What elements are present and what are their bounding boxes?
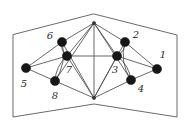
graph-node-2 bbox=[120, 37, 129, 46]
graph-edge-7-t bbox=[67, 23, 94, 56]
graph-node-5 bbox=[21, 63, 30, 72]
node-label-5: 5 bbox=[21, 78, 27, 89]
graph-apex-node-t bbox=[92, 21, 95, 24]
graph-edge-4-b bbox=[94, 80, 131, 98]
figure-root: 12345678 bbox=[0, 0, 188, 128]
graph-edge-5-7 bbox=[26, 56, 67, 68]
node-label-3: 3 bbox=[112, 64, 118, 75]
graph-node-7 bbox=[62, 51, 71, 60]
graph-node-8 bbox=[50, 76, 59, 85]
graph-node-4 bbox=[126, 75, 135, 84]
graph-node-6 bbox=[57, 37, 66, 46]
graph-edge-8-t bbox=[55, 23, 94, 81]
graph-edge-5-6 bbox=[26, 42, 62, 68]
graph-node-1 bbox=[152, 64, 161, 73]
graph-edge-1-2 bbox=[125, 42, 157, 69]
graph-edge-3-b bbox=[94, 56, 117, 98]
node-label-6: 6 bbox=[47, 30, 54, 41]
node-label-8: 8 bbox=[52, 90, 58, 101]
graph-apex-node-b bbox=[92, 96, 95, 99]
graph-edge-2-t bbox=[94, 23, 125, 42]
node-label-2: 2 bbox=[132, 29, 139, 40]
node-label-7: 7 bbox=[66, 64, 73, 75]
graph-diagram-canvas: 12345678 bbox=[0, 0, 188, 128]
graph-edge-6-t bbox=[62, 23, 94, 42]
node-label-4: 4 bbox=[137, 83, 144, 94]
graph-node-3 bbox=[112, 51, 121, 60]
node-label-1: 1 bbox=[160, 49, 166, 60]
